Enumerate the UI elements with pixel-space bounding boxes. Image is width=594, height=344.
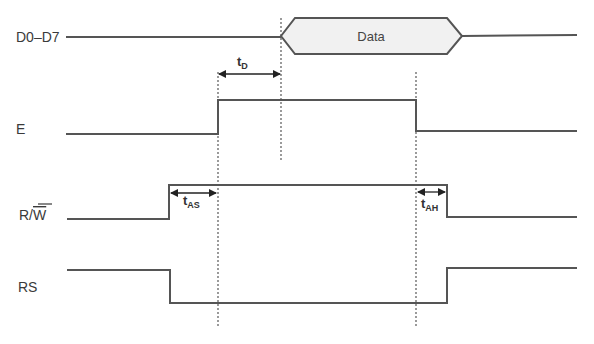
signal-label-e: E [16,121,25,137]
t-d-label: tD [237,54,248,71]
signal-label-r-w: R/W [19,207,47,223]
t-as-label: tAS [183,193,200,210]
waveform-e [66,100,577,134]
waveform-rs [67,268,577,303]
signal-label-d0-d7: D0–D7 [16,29,60,45]
bus-data-label: Data [357,29,385,44]
t-ah-label: tAH [421,196,438,213]
bus-line-d0-d7-right [462,35,577,36]
signal-label-rs: RS [18,279,37,295]
timing-diagram: D0–D7 Data tD E R/W tAS tAH RS [0,0,594,344]
waveform-r-w [67,185,577,219]
